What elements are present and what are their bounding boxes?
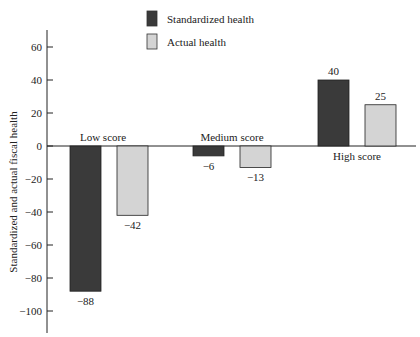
y-tick-label: 20 [31,107,43,119]
value-label: −42 [124,219,141,231]
bar-actual-health [365,105,396,146]
value-label: −6 [203,160,215,172]
value-label: 25 [375,90,387,102]
y-tick-label: −40 [25,206,43,218]
bar-standardized-health [193,146,224,156]
bar-standardized-health [318,80,349,146]
category-label: Low score [80,131,126,143]
y-tick-label: 60 [31,41,43,53]
value-label: −88 [77,295,95,307]
value-label: 40 [328,65,340,77]
legend-swatch [147,34,157,49]
category-label: Medium score [200,131,263,143]
bar-chart: Standardized healthActual health 6040200… [0,0,420,337]
value-label: −13 [247,171,265,183]
chart-canvas: Standardized healthActual health 6040200… [0,0,420,337]
bar-actual-health [240,146,271,167]
y-tick-label: −20 [25,173,43,185]
y-tick-label: 0 [37,140,43,152]
bar-actual-health [117,146,148,215]
y-tick-label: −100 [19,305,42,317]
category-label: High score [333,150,381,162]
y-tick-label: 40 [31,74,43,86]
legend-label: Actual health [167,36,226,48]
y-axis-label: Standardized and actual fiscal health [7,111,19,273]
legend-label: Standardized health [167,13,255,25]
legend-swatch [147,11,157,26]
y-tick-label: −80 [25,272,43,284]
y-tick-label: −60 [25,239,43,251]
legend: Standardized healthActual health [147,11,255,49]
bar-standardized-health [70,146,101,291]
bars [70,80,396,291]
